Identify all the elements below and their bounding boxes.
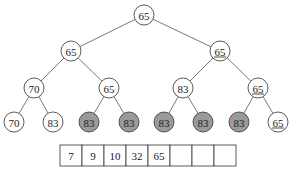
node-label: 83 — [178, 83, 190, 95]
tree-node: 65 — [268, 112, 288, 132]
tree-edge — [169, 97, 178, 114]
node-label: 65 — [273, 117, 285, 129]
tree-node-shaded: 83 — [79, 112, 99, 132]
tree-node-shaded: 83 — [229, 112, 249, 132]
tree-edge — [188, 97, 198, 114]
tree-edge — [41, 58, 64, 81]
tree-edges — [19, 19, 273, 113]
array-cell: 10 — [104, 145, 126, 166]
node-label: 83 — [124, 117, 136, 129]
tree-edge — [263, 97, 273, 114]
tree-edge — [190, 58, 213, 81]
node-label: 83 — [234, 117, 246, 129]
array-cell — [170, 145, 192, 166]
tree-node: 65 — [134, 5, 154, 25]
array-cell-value: 10 — [110, 150, 122, 162]
array-cell — [214, 145, 236, 166]
tree-edge — [80, 19, 135, 46]
node-label: 65 — [215, 46, 227, 58]
array-cell: 65 — [148, 145, 170, 166]
node-label: 65 — [253, 83, 265, 95]
array-cell-value: 9 — [90, 150, 96, 162]
array-cell — [192, 145, 214, 166]
node-label: 65 — [139, 10, 151, 22]
tree-edge — [114, 97, 124, 114]
tree-edge — [244, 97, 253, 114]
tree-edge — [39, 97, 48, 114]
node-label: 83 — [48, 117, 60, 129]
tree-node: 65 — [248, 78, 268, 98]
tree-edge — [94, 97, 104, 114]
tree-node-shaded: 83 — [154, 112, 174, 132]
node-label: 65 — [104, 83, 116, 95]
tree-edge — [78, 58, 102, 81]
node-label: 70 — [29, 83, 41, 95]
tree-edge — [19, 97, 29, 114]
tree-node: 65 — [210, 41, 230, 61]
node-label: 65 — [66, 46, 78, 58]
node-label: 70 — [9, 117, 21, 129]
tree-node: 70 — [24, 78, 44, 98]
array-cell-value: 65 — [154, 150, 166, 162]
tree-node: 83 — [43, 112, 63, 132]
array-cell: 7 — [60, 145, 82, 166]
tree-node: 65 — [99, 78, 119, 98]
tree-edge — [153, 19, 211, 46]
tree-node-shaded: 83 — [119, 112, 139, 132]
tree-node: 70 — [4, 112, 24, 132]
tree-node: 65 — [61, 41, 81, 61]
output-array: 79103265 — [60, 145, 236, 166]
tree-nodes: 656565706583657083838383838365 — [4, 5, 288, 132]
array-cell-value: 32 — [132, 150, 143, 162]
tree-node-shaded: 83 — [193, 112, 213, 132]
node-label: 83 — [84, 117, 96, 129]
tree-node: 83 — [173, 78, 193, 98]
node-label: 83 — [159, 117, 171, 129]
node-label: 83 — [198, 117, 210, 129]
array-cell: 9 — [82, 145, 104, 166]
tree-edge — [227, 58, 251, 81]
array-cell-value: 7 — [68, 150, 74, 162]
array-cell: 32 — [126, 145, 148, 166]
tournament-tree-diagram: 656565706583657083838383838365 79103265 — [0, 0, 289, 171]
